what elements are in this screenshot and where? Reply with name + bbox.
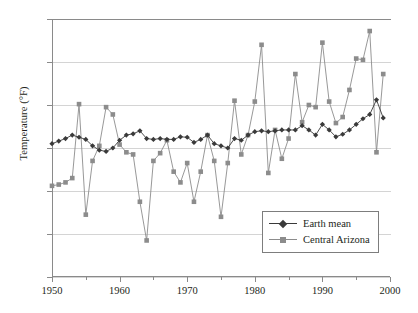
legend-label-earth-mean: Earth mean bbox=[303, 218, 351, 230]
data-point bbox=[192, 199, 197, 204]
series-layer bbox=[0, 0, 418, 313]
data-point bbox=[185, 161, 190, 166]
data-point bbox=[151, 159, 156, 164]
data-point bbox=[259, 43, 264, 48]
series-line bbox=[52, 31, 383, 240]
temperature-anomaly-chart: Temperature (°F) 3210−1−2−3 195019601970… bbox=[0, 0, 418, 313]
data-point bbox=[171, 169, 176, 174]
data-point bbox=[381, 115, 386, 120]
data-point bbox=[104, 105, 109, 110]
data-point bbox=[111, 112, 116, 117]
data-point bbox=[131, 152, 136, 157]
data-point bbox=[117, 142, 122, 147]
data-point bbox=[77, 102, 82, 107]
data-point bbox=[266, 171, 271, 176]
data-point bbox=[361, 58, 366, 63]
data-point bbox=[286, 127, 291, 132]
data-point bbox=[212, 159, 217, 164]
series-line bbox=[52, 100, 383, 152]
data-point bbox=[56, 182, 61, 187]
data-point bbox=[340, 115, 345, 120]
data-point bbox=[49, 141, 54, 146]
legend-item-central-arizona: Central Arizona bbox=[269, 232, 370, 248]
data-point bbox=[374, 97, 379, 102]
data-point bbox=[347, 88, 352, 93]
data-point bbox=[70, 176, 75, 181]
data-point bbox=[367, 29, 372, 34]
data-point bbox=[124, 150, 129, 155]
data-point bbox=[252, 129, 257, 134]
legend-swatch-earth-mean bbox=[269, 218, 297, 230]
data-point bbox=[218, 143, 223, 148]
legend-label-central-arizona: Central Arizona bbox=[303, 234, 370, 246]
chart-legend: Earth mean Central Arizona bbox=[262, 211, 379, 253]
data-point bbox=[340, 132, 345, 137]
data-point bbox=[354, 56, 359, 61]
data-point bbox=[97, 144, 102, 149]
data-point bbox=[63, 180, 68, 185]
data-point bbox=[158, 151, 163, 156]
data-point bbox=[63, 136, 68, 141]
data-point bbox=[232, 98, 237, 103]
data-point bbox=[158, 136, 163, 141]
data-point bbox=[70, 133, 75, 138]
data-point bbox=[131, 131, 136, 136]
data-point bbox=[84, 212, 89, 217]
data-point bbox=[320, 40, 325, 45]
data-point bbox=[293, 72, 298, 77]
data-point bbox=[103, 149, 108, 154]
data-point bbox=[259, 128, 264, 133]
data-point bbox=[374, 150, 379, 155]
data-point bbox=[50, 184, 55, 189]
data-point bbox=[56, 139, 61, 144]
data-point bbox=[327, 99, 332, 104]
data-point bbox=[171, 137, 176, 142]
data-point bbox=[178, 134, 183, 139]
data-point bbox=[307, 103, 312, 108]
legend-swatch-central-arizona bbox=[269, 234, 297, 246]
legend-item-earth-mean: Earth mean bbox=[269, 216, 370, 232]
data-point bbox=[239, 152, 244, 157]
data-point bbox=[313, 105, 318, 110]
data-point bbox=[334, 121, 339, 126]
data-point bbox=[144, 238, 149, 243]
data-point bbox=[90, 159, 95, 164]
data-point bbox=[253, 99, 258, 104]
data-point bbox=[219, 215, 224, 220]
data-point bbox=[381, 72, 386, 77]
data-point bbox=[367, 112, 372, 117]
data-point bbox=[286, 136, 291, 141]
data-point bbox=[293, 127, 298, 132]
data-point bbox=[138, 199, 143, 204]
data-point bbox=[151, 137, 156, 142]
data-point bbox=[198, 169, 203, 174]
data-point bbox=[97, 148, 102, 153]
data-point bbox=[198, 137, 203, 142]
data-point bbox=[280, 156, 285, 161]
data-point bbox=[178, 180, 183, 185]
data-point bbox=[225, 161, 230, 166]
data-point bbox=[279, 127, 284, 132]
